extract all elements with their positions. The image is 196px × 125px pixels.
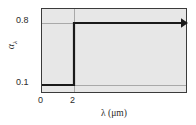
x-axis-label: λ (μm) xyxy=(41,108,187,118)
x-tick-label-2: 2 xyxy=(70,95,75,105)
y-axis-label: αλ xyxy=(5,30,19,60)
y-tick-label-0.8: 0.8 xyxy=(16,15,29,25)
y-tick-label-0.1: 0.1 xyxy=(16,77,29,87)
chart-figure: αλ 0.8 0.1 0 2 λ (μm) xyxy=(0,0,196,125)
data-curve xyxy=(42,9,188,94)
arrowhead-right-icon xyxy=(181,18,188,28)
x-tick-label-0: 0 xyxy=(38,95,43,105)
plot-area xyxy=(41,8,187,93)
step-polyline xyxy=(42,23,181,85)
y-axis-label-subscript: λ xyxy=(11,41,19,44)
y-axis-label-symbol: α xyxy=(5,44,16,49)
